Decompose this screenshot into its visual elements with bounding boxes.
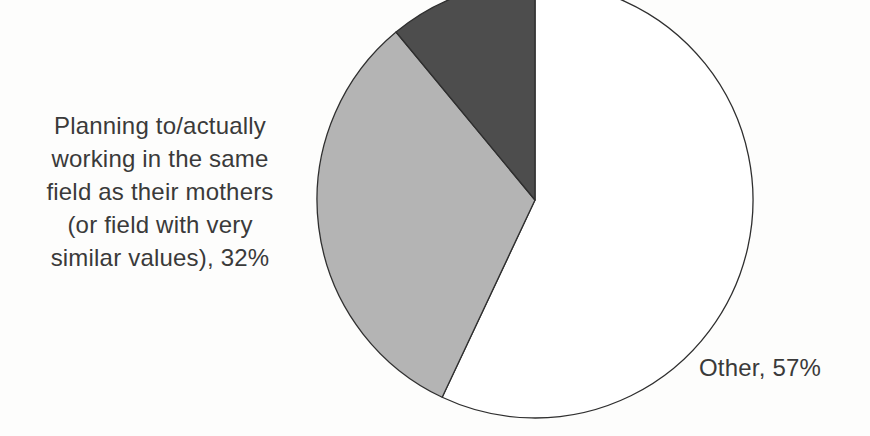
slice-label-planning-line: working in the same bbox=[18, 142, 302, 175]
slice-label-planning: Planning to/actually working in the same… bbox=[18, 109, 302, 274]
slice-label-other: Other, 57% bbox=[699, 354, 821, 382]
slice-label-planning-line: field as their mothers bbox=[18, 175, 302, 208]
figure-canvas: Planning to/actually working in the same… bbox=[0, 0, 870, 436]
slice-label-planning-line: (or field with very bbox=[18, 208, 302, 241]
slice-label-planning-line: similar values), 32% bbox=[18, 241, 302, 274]
slice-label-planning-line: Planning to/actually bbox=[18, 109, 302, 142]
